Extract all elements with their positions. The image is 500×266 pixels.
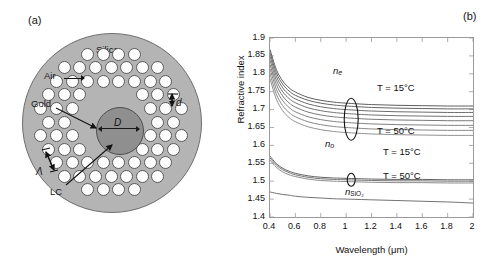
- air-hole: [167, 143, 180, 156]
- curve-n-e-t-30c: [270, 60, 473, 116]
- air-hole: [144, 102, 157, 115]
- air-hole: [66, 129, 79, 142]
- air-hole: [97, 75, 110, 88]
- air-hole: [42, 116, 55, 129]
- annotation-ne-t15: T = 15°C: [377, 82, 415, 93]
- annotation-no-t15: T = 15°C: [383, 146, 421, 157]
- air-hole: [50, 102, 63, 115]
- air-hole: [128, 48, 141, 61]
- x-tick-label: 1.2: [358, 222, 384, 231]
- air-hole: [136, 170, 149, 183]
- air-hole: [159, 129, 172, 142]
- plot-area: [269, 37, 474, 218]
- gold-label: Gold: [31, 98, 51, 109]
- y-tick-label: 1.85: [231, 50, 265, 59]
- air-hole: [105, 170, 118, 183]
- x-tick-label: 1.6: [408, 222, 434, 231]
- air-hole: [144, 156, 157, 169]
- air-hole: [128, 75, 141, 88]
- y-tick-label: 1.6: [231, 140, 265, 149]
- curves-svg: [270, 38, 473, 217]
- y-tick-label: 1.9: [231, 33, 265, 42]
- air-hole: [151, 143, 164, 156]
- panel-a-letter: (a): [28, 14, 41, 26]
- x-tick-label: 2: [459, 222, 485, 231]
- air-hole: [50, 129, 63, 142]
- y-tick-label: 1.75: [231, 86, 265, 95]
- y-tick-label: 1.5: [231, 176, 265, 185]
- air-hole: [159, 75, 172, 88]
- pitch-label: Λ: [36, 166, 43, 177]
- lc-label: LC: [50, 186, 62, 197]
- curve-n-e-t-45c: [270, 74, 473, 131]
- annotation-nsio2: nSiO₂: [345, 186, 364, 197]
- x-axis-label: Wavelength (μm): [269, 244, 474, 255]
- air-hole: [128, 183, 141, 196]
- annotation-no: no: [325, 138, 334, 149]
- air-hole: [175, 129, 188, 142]
- air-hole: [105, 61, 118, 74]
- air-hole: [128, 156, 141, 169]
- air-hole: [151, 170, 164, 183]
- annotation-ne: ne: [333, 65, 342, 76]
- panel-b-refractive-index-chart: (b) Refractive index Wavelength (μm) 1.4…: [215, 0, 500, 266]
- x-tick-label: 0.6: [281, 222, 307, 231]
- air-label: Air: [44, 70, 56, 81]
- air-hole: [97, 183, 110, 196]
- air-hole: [151, 116, 164, 129]
- air-hole: [144, 129, 157, 142]
- y-tick-label: 1.65: [231, 122, 265, 131]
- air-hole: [58, 116, 71, 129]
- y-tick-label: 1.7: [231, 104, 265, 113]
- air-leader-arrow-icon: [64, 78, 84, 79]
- x-tick-label: 0.8: [307, 222, 333, 231]
- air-hole: [73, 143, 86, 156]
- air-hole: [97, 156, 110, 169]
- hole-diameter-label: d: [176, 97, 182, 108]
- air-hole: [97, 48, 110, 61]
- y-tick-label: 1.55: [231, 158, 265, 167]
- y-tick-label: 1.45: [231, 194, 265, 203]
- curve-n-sio2: [270, 192, 473, 203]
- core-diameter-arrow: [99, 128, 139, 129]
- annotation-ne-t50: T = 50°C: [377, 125, 415, 136]
- air-hole: [73, 170, 86, 183]
- x-tick-label: 1: [332, 222, 358, 231]
- air-hole: [120, 170, 133, 183]
- core-diameter-label: D: [114, 117, 121, 128]
- air-hole: [66, 156, 79, 169]
- air-hole: [58, 143, 71, 156]
- panel-a-fiber-cross-section: (a) Silica D Air Gold LC d Λ: [0, 0, 215, 266]
- y-tick-label: 1.8: [231, 68, 265, 77]
- annotation-no-t50: T = 50°C: [383, 170, 421, 181]
- curve-n-e-t-20c: [270, 53, 473, 109]
- air-hole: [167, 116, 180, 129]
- ne-bundle-marker: [344, 98, 358, 140]
- air-hole: [144, 75, 157, 88]
- air-hole: [89, 170, 102, 183]
- panel-b-letter: (b): [463, 10, 476, 22]
- air-hole: [42, 143, 55, 156]
- air-hole: [50, 156, 63, 169]
- air-hole: [81, 48, 94, 61]
- air-hole: [66, 102, 79, 115]
- air-hole: [159, 102, 172, 115]
- curve-n-e-t-25c: [270, 56, 473, 112]
- x-tick-label: 0.4: [256, 222, 282, 231]
- x-tick-label: 1.4: [383, 222, 409, 231]
- air-hole: [58, 170, 71, 183]
- y-tick-label: 1.4: [231, 212, 265, 221]
- x-tick-label: 1.8: [434, 222, 460, 231]
- x-axis-tick-labels: 0.40.60.811.21.41.61.82: [215, 222, 500, 236]
